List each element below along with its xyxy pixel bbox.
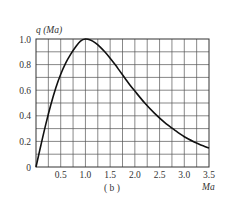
y-tick-label: 0 bbox=[26, 163, 31, 173]
x-tick-label: 2.5 bbox=[154, 170, 166, 180]
y-tick-label: 0.2 bbox=[19, 137, 31, 147]
y-tick-label: 0.8 bbox=[19, 60, 31, 70]
x-axis-label: Ma bbox=[201, 182, 215, 192]
y-axis-label: q (Ma) bbox=[36, 25, 62, 36]
y-tick-labels: 00.20.40.60.81.0 bbox=[19, 35, 31, 173]
x-tick-label: 3.0 bbox=[178, 170, 190, 180]
x-tick-labels: 0.51.01.52.02.53.03.5 bbox=[55, 170, 215, 180]
x-tick-label: 1.0 bbox=[79, 170, 91, 180]
y-tick-label: 0.6 bbox=[19, 86, 31, 96]
x-tick-label: 1.5 bbox=[104, 170, 116, 180]
q-ma-chart: 0.51.01.52.02.53.03.5 00.20.40.60.81.0 q… bbox=[0, 0, 228, 204]
grid-lines bbox=[36, 39, 209, 167]
x-tick-label: 3.5 bbox=[203, 170, 215, 180]
y-tick-label: 1.0 bbox=[19, 35, 31, 45]
figure-caption: ( b ) bbox=[104, 183, 120, 194]
x-tick-label: 2.0 bbox=[129, 170, 141, 180]
x-tick-label: 0.5 bbox=[55, 170, 67, 180]
y-tick-label: 0.4 bbox=[19, 111, 31, 121]
